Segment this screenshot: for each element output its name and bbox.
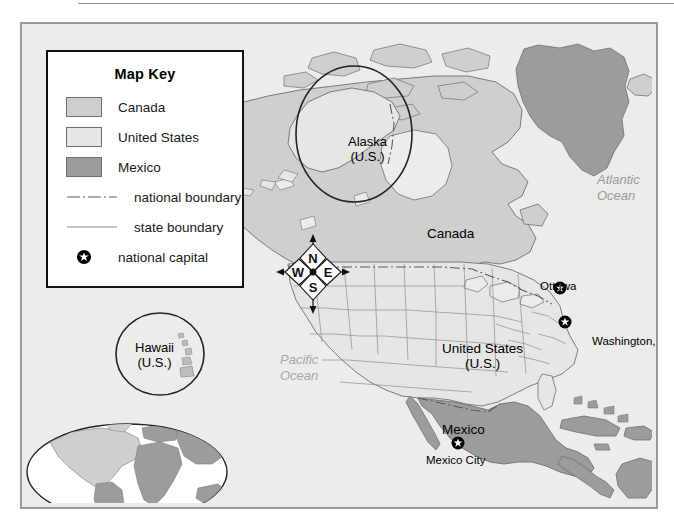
alaska-label-line1: Alaska [348, 134, 387, 149]
map-page: Atlantic Ocean Pacific Ocean Canada Unit… [0, 0, 674, 526]
hawaii-inset-label: Hawaii (U.S.) [135, 340, 174, 370]
dash-dot-line-icon [66, 191, 118, 203]
map-frame: Atlantic Ocean Pacific Ocean Canada Unit… [20, 22, 658, 509]
key-entry-canada: Canada [48, 92, 242, 122]
key-label-state-boundary: state boundary [134, 220, 223, 235]
key-label-united-states: United States [118, 130, 199, 145]
compass-north-letter: N [308, 251, 317, 266]
pacific-ocean-label: Pacific Ocean [280, 352, 318, 384]
national-capital-icon [66, 247, 102, 267]
page-top-rule [78, 3, 674, 4]
map-key-entries: Canada United States Mexico [48, 92, 242, 272]
key-entry-state-boundary: state boundary [48, 212, 242, 242]
key-label-national-boundary: national boundary [134, 190, 241, 205]
key-entry-united-states: United States [48, 122, 242, 152]
swatch-mexico-icon [66, 157, 102, 177]
compass-south-letter: S [309, 280, 318, 295]
united-states-label-line1: United States [442, 341, 523, 356]
united-states-label: United States (U.S.) [442, 341, 523, 371]
alaska-inset-label: Alaska (U.S.) [348, 134, 387, 164]
washington-dc-label: Washington, D.C. [592, 335, 658, 347]
solid-line-icon [66, 221, 118, 233]
canada-label: Canada [427, 226, 474, 241]
ottawa-label: Ottawa [540, 280, 576, 292]
key-entry-national-capital: national capital [48, 242, 242, 272]
map-key-title: Map Key [48, 66, 242, 82]
map-key-panel: Map Key Canada United States Mexico [46, 50, 244, 288]
washington-dc-marker [559, 316, 572, 329]
swatch-united-states-icon [66, 127, 102, 147]
key-label-national-capital: national capital [118, 250, 208, 265]
key-entry-national-boundary: national boundary [48, 182, 242, 212]
key-entry-mexico: Mexico [48, 152, 242, 182]
compass-rose: N S E W [274, 232, 352, 316]
mexico-city-label: Mexico City [426, 454, 485, 466]
mexico-label: Mexico [442, 422, 485, 437]
compass-east-letter: E [324, 265, 333, 280]
swatch-canada-icon [66, 97, 102, 117]
mexico-city-marker [452, 437, 465, 450]
key-label-canada: Canada [118, 100, 165, 115]
hawaii-label-line2: (U.S.) [135, 355, 174, 370]
atlantic-ocean-label: Atlantic Ocean [597, 172, 640, 204]
united-states-label-line2: (U.S.) [442, 356, 523, 371]
alaska-label-line2: (U.S.) [348, 149, 387, 164]
compass-west-letter: W [292, 265, 305, 280]
hawaii-label-line1: Hawaii [135, 340, 174, 355]
key-label-mexico: Mexico [118, 160, 161, 175]
